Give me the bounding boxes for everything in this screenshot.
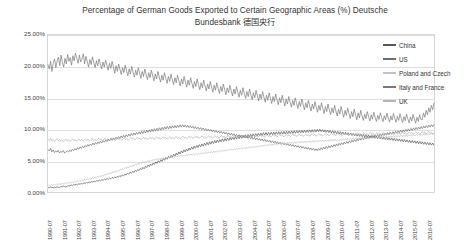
legend-label: China: [399, 42, 415, 49]
chart-legend: ChinaUSPoland and CzechItaly and FranceU…: [383, 38, 470, 108]
y-axis-tick-label: 10.00%: [0, 125, 45, 132]
x-axis-tick-label: 2011-07: [354, 221, 360, 240]
series-line: [48, 133, 434, 186]
legend-item[interactable]: Italy and France: [383, 80, 470, 94]
x-axis-tick-label: 2001-07: [208, 220, 214, 240]
legend-item[interactable]: US: [383, 52, 470, 66]
x-axis-tick-label: 2006-07: [281, 220, 287, 240]
x-axis-tick-label: 2016-07: [427, 220, 433, 240]
legend-label: Italy and France: [399, 84, 444, 91]
legend-color-swatch: [383, 100, 396, 102]
x-axis-tick-label: 1996-07: [135, 220, 141, 240]
x-axis-tick-label: 1993-07: [91, 220, 97, 240]
x-axis-tick-label: 1991-07: [62, 220, 68, 240]
y-axis-tick-label: 25.00%: [0, 30, 45, 37]
x-axis-tick-label: 1997-07: [149, 220, 155, 240]
y-axis-tick-label: 5.00%: [0, 157, 45, 164]
x-axis-tick-label: 2015-07: [412, 220, 418, 240]
chart-title-line-2: Bundesbank 德国央行: [195, 18, 276, 27]
x-axis-tick-label: 1990-07: [47, 220, 53, 240]
chart-title-line-1: Percentage of German Goods Exported to C…: [82, 6, 388, 15]
series-line: [48, 129, 434, 188]
chart-container: Percentage of German Goods Exported to C…: [0, 0, 470, 243]
x-axis-tick-label: 2005-07: [266, 220, 272, 240]
legend-label: US: [399, 56, 408, 63]
x-axis-tick-label: 2013-07: [383, 220, 389, 240]
x-axis-tick-label: 2004-07: [252, 220, 258, 240]
legend-item[interactable]: Poland and Czech: [383, 66, 470, 80]
x-axis-tick-label: 2008-07: [310, 220, 316, 240]
series-lines: [48, 35, 434, 192]
x-axis-tick-label: 2010-07: [339, 220, 345, 240]
x-axis-tick-label: 2000-07: [193, 220, 199, 240]
x-axis-tick-label: 1994-07: [105, 220, 111, 240]
legend-color-swatch: [383, 44, 396, 46]
x-axis-tick-label: 1992-07: [76, 220, 82, 240]
x-axis-tick-label: 2002-07: [222, 220, 228, 240]
legend-item[interactable]: UK: [383, 94, 470, 108]
plot-area: [47, 34, 435, 193]
x-axis-tick-label: 1998-07: [164, 220, 170, 240]
x-axis-tick-label: 2003-07: [237, 220, 243, 240]
legend-label: UK: [399, 98, 408, 105]
legend-color-swatch: [383, 72, 396, 74]
legend-item[interactable]: China: [383, 38, 470, 52]
x-axis-tick-label: 1999-07: [179, 220, 185, 240]
legend-label: Poland and Czech: [399, 70, 450, 77]
legend-color-swatch: [383, 86, 396, 88]
legend-color-swatch: [383, 58, 396, 60]
x-axis-tick-label: 2007-07: [295, 220, 301, 240]
x-axis-tick-label: 1995-07: [120, 220, 126, 240]
x-axis-tick-label: 2012-07: [369, 220, 375, 240]
x-axis-tick-label: 2014-07: [398, 220, 404, 240]
x-axis-tick-label: 2009-07: [325, 220, 331, 240]
series-line: [48, 53, 434, 123]
y-axis-tick-label: 15.00%: [0, 94, 45, 101]
y-axis-tick-label: 20.00%: [0, 62, 45, 69]
y-axis-tick-label: 0.00%: [0, 189, 45, 196]
chart-title: Percentage of German Goods Exported to C…: [40, 5, 430, 28]
